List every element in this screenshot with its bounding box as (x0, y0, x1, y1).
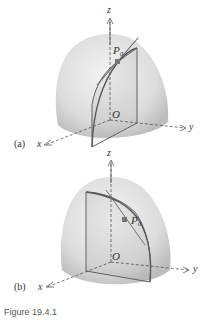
z-axis-label: z (107, 4, 111, 15)
figure-caption: Figure 19.4.1 (4, 307, 57, 317)
x-axis-label: x (37, 138, 41, 149)
paraboloid-diagram-a (0, 0, 213, 155)
paraboloid-diagram-b (0, 150, 213, 310)
figure-panel-b: z P₀ O y x (b) (0, 150, 213, 310)
figure-panel-a: z P₀ O y x (a) (0, 0, 213, 155)
y-axis-label: y (193, 263, 197, 274)
y-axis-label: y (189, 121, 193, 132)
x-axis-label: x (38, 281, 42, 292)
point-label: P₀ (113, 44, 124, 56)
origin-label: O (112, 250, 120, 262)
panel-label-a: (a) (14, 138, 25, 149)
panel-label-b: (b) (14, 281, 26, 292)
origin-label: O (112, 108, 120, 120)
point-label: P₀ (131, 214, 142, 226)
z-axis-label: z (107, 147, 111, 158)
